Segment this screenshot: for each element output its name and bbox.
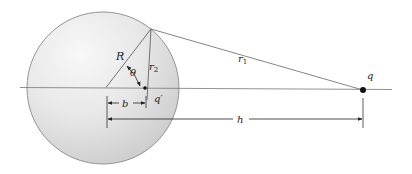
label-b: b (122, 98, 128, 109)
image-charge-dot (143, 86, 147, 90)
label-r1: r1 (238, 53, 247, 66)
sphere-image-charge-diagram: R θ r2 r1 q q′ b h (0, 0, 412, 174)
diagram-canvas: R θ r2 r1 q q′ b h (0, 0, 412, 174)
label-charge: q (367, 70, 373, 81)
label-radius: R (115, 50, 124, 63)
label-theta: θ (130, 67, 136, 78)
label-h: h (237, 114, 243, 125)
label-r1-sub: 1 (243, 58, 247, 66)
r1-line (151, 29, 363, 90)
label-r2-sub: 2 (154, 66, 158, 74)
label-image-charge: q′ (154, 93, 163, 104)
charge-dot (360, 87, 366, 93)
